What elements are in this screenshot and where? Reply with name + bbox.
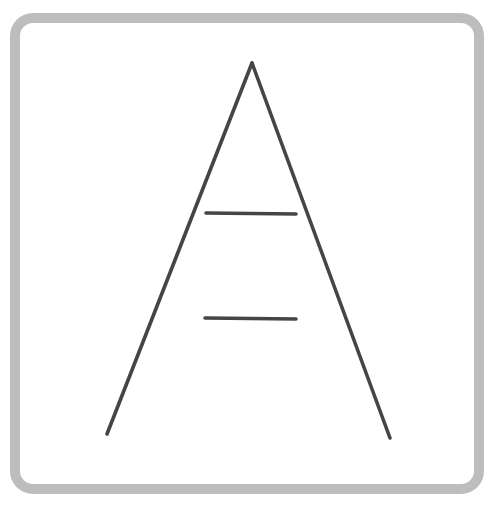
ponzo-illusion-diagram [0, 0, 498, 508]
converging-line-right [252, 63, 390, 438]
converging-line-left [107, 63, 252, 434]
lower-horizontal-bar [205, 318, 296, 319]
rounded-frame [15, 18, 479, 489]
upper-horizontal-bar [206, 213, 296, 214]
